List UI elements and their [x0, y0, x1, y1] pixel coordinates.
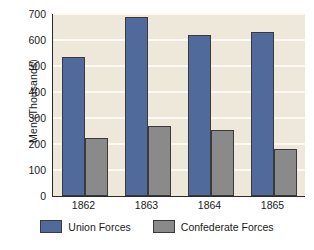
x-tick-label-1862: 1862	[72, 199, 95, 211]
x-axis-tick-labels: 1862186318641865	[52, 199, 304, 215]
legend-label-confed: Confederate Forces	[181, 221, 274, 233]
y-tick-label: 100	[16, 165, 46, 176]
bar-confederate-1864	[211, 130, 234, 196]
bar-confederate-1862	[85, 138, 108, 197]
bar-union-1864	[188, 35, 211, 196]
legend-swatch-union	[40, 220, 62, 233]
chart-figure: Men (Thousands) 0100200300400500600700 1…	[0, 0, 314, 250]
y-tick-label: 700	[16, 9, 46, 20]
bar-group-1862	[62, 14, 108, 196]
bar-group-1865	[251, 14, 297, 196]
x-tick-label-1864: 1864	[198, 199, 221, 211]
y-axis-tick-labels: 0100200300400500600700	[16, 14, 46, 196]
legend-swatch-confed	[153, 220, 175, 233]
bar-union-1863	[125, 17, 148, 196]
legend-entry-confed[interactable]: Confederate Forces	[153, 220, 274, 233]
bar-union-1865	[251, 32, 274, 196]
legend-label-union: Union Forces	[68, 221, 130, 233]
bar-confederate-1865	[274, 149, 297, 196]
x-tick-label-1863: 1863	[135, 199, 158, 211]
bar-group-1863	[125, 14, 171, 196]
y-tick-label: 0	[16, 191, 46, 202]
y-tick-label: 500	[16, 61, 46, 72]
bar-union-1862	[62, 57, 85, 196]
y-tick-label: 400	[16, 87, 46, 98]
plot-area	[52, 14, 305, 197]
bar-series-container	[53, 14, 305, 196]
bar-confederate-1863	[148, 126, 171, 196]
x-tick-label-1865: 1865	[261, 199, 284, 211]
y-tick-label: 300	[16, 113, 46, 124]
bar-group-1864	[188, 14, 234, 196]
y-tick-label: 600	[16, 35, 46, 46]
legend-entry-union[interactable]: Union Forces	[40, 220, 130, 233]
y-tick-label: 200	[16, 139, 46, 150]
chart-legend: Union ForcesConfederate Forces	[0, 220, 314, 233]
